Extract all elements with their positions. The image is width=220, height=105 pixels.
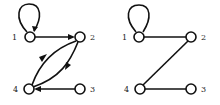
node-label-4-undirected: 4: [124, 85, 129, 94]
node-label-3-undirected: 3: [201, 85, 206, 94]
node-3-undirected: [186, 84, 196, 94]
edge-2-4-undirected: [143, 41, 188, 85]
arrowhead-1-2: [68, 34, 75, 40]
edge-4-2: [32, 41, 76, 85]
node-2-undirected: [186, 32, 196, 42]
node-label-4: 4: [13, 85, 18, 94]
node-label-3: 3: [90, 85, 95, 94]
node-label-1: 1: [12, 33, 17, 42]
node-4-undirected: [135, 84, 145, 94]
graph-figure: 1 2 3 4 1 2 3 4: [0, 0, 220, 105]
node-2: [75, 32, 85, 42]
edge-2-4: [33, 42, 78, 87]
node-label-2: 2: [90, 33, 95, 42]
node-1: [25, 32, 35, 42]
node-3: [75, 84, 85, 94]
edge-1-1-loop-undirected: [128, 5, 149, 32]
node-label-1-undirected: 1: [122, 33, 127, 42]
arrowhead-2-4: [65, 62, 71, 70]
arrowhead-1-1: [32, 26, 38, 32]
undirected-graph: 1 2 3 4: [122, 5, 206, 94]
node-4: [24, 84, 34, 94]
node-1-undirected: [134, 32, 144, 42]
node-label-2-undirected: 2: [201, 33, 206, 42]
directed-graph: 1 2 3 4: [12, 4, 95, 94]
